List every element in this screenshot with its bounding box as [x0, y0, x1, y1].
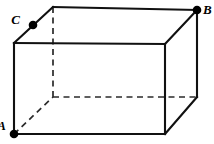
cuboid-diagram-svg: A B C: [0, 0, 214, 144]
hidden-bottom-left-receding-edge: [14, 97, 53, 134]
vertex-markers-group: [10, 6, 202, 139]
front-top-edge: [14, 43, 165, 44]
point-label-c: C: [11, 12, 20, 27]
visible-edges-group: [14, 7, 197, 134]
point-marker-c: [29, 21, 38, 30]
back-top-edge: [53, 7, 197, 10]
point-label-a: A: [0, 118, 6, 133]
hidden-edges-group: [14, 7, 197, 134]
bottom-right-receding-edge: [165, 97, 197, 134]
point-marker-b: [193, 6, 202, 15]
point-marker-a: [10, 130, 19, 139]
cuboid-figure: A B C: [0, 0, 214, 144]
point-label-b: B: [202, 2, 212, 17]
top-right-receding-edge: [165, 10, 197, 44]
